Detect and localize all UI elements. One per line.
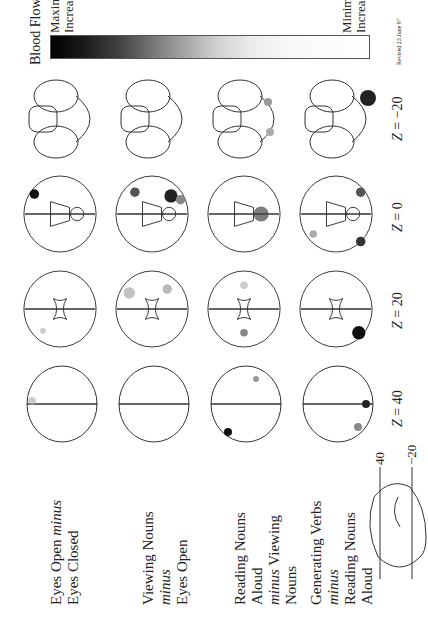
slice-z20 <box>114 266 190 352</box>
condition-label: Viewing Nouns minus Eyes Open <box>140 475 191 605</box>
slice-z0 <box>206 171 282 257</box>
pet-figure: Eyes Open minus Eyes Closed Viewing Noun… <box>0 0 428 627</box>
condition-label: Eyes Open minus Eyes Closed <box>48 475 82 605</box>
sagittal-inset: 40 −20 <box>360 447 428 587</box>
slice-z40 <box>24 361 100 447</box>
slice-z0 <box>298 171 374 257</box>
slice-z40 <box>300 361 376 447</box>
slice-z20 <box>298 266 374 352</box>
condition-row-3: Reading Nouns Aloud minus Viewing Nouns <box>202 0 294 627</box>
inset-tick-minus20: −20 <box>404 445 420 465</box>
revised-date: Revised 23 June 97 <box>396 18 402 65</box>
slice-zm20 <box>210 76 286 162</box>
colorbar-title: Blood Flow <box>28 0 44 65</box>
condition-row-2: Viewing Nouns minus Eyes Open <box>110 0 202 627</box>
slice-z40 <box>116 361 192 447</box>
z-label-0: Z = 0 <box>390 202 406 232</box>
slice-zm20 <box>302 76 378 162</box>
colorbar-legend: Blood Flow MaximumIncrease MinimumIncrea… <box>0 0 428 67</box>
slice-z40 <box>208 361 284 447</box>
z-label-40: Z = 40 <box>390 390 406 427</box>
slice-z0 <box>22 171 98 257</box>
max-increase-label: MaximumIncrease <box>48 0 76 33</box>
min-increase-label: MinimumIncrease <box>340 0 368 33</box>
condition-label: Reading Nouns Aloud minus Viewing Nouns <box>232 475 300 605</box>
slice-zm20 <box>118 76 194 162</box>
z-label-minus20: Z = −20 <box>390 96 406 141</box>
slice-z20 <box>206 266 282 352</box>
inset-tick-40: 40 <box>372 452 388 465</box>
colorbar <box>50 35 370 59</box>
condition-row-1: Eyes Open minus Eyes Closed <box>18 0 110 627</box>
z-label-20: Z = 20 <box>390 292 406 329</box>
slice-z20 <box>22 266 98 352</box>
slice-z0 <box>114 171 190 257</box>
slice-zm20 <box>26 76 102 162</box>
